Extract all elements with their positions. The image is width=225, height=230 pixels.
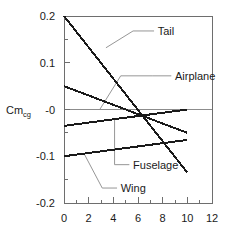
cm-cg-vs-alpha-chart: 024681012-0.2-0.1-00.10.2CmcgTailAirplan… — [0, 0, 225, 230]
x-tick-label: 6 — [135, 212, 141, 224]
series-label-airplane: Airplane — [175, 70, 215, 82]
leader-line-wing — [84, 153, 117, 188]
x-tick-label: 8 — [160, 212, 166, 224]
series-line-tail — [64, 16, 187, 173]
y-tick-label: 0.1 — [40, 57, 55, 69]
x-tick-label: 10 — [181, 212, 193, 224]
leader-line-fuselage — [115, 120, 130, 165]
series-label-tail: Tail — [158, 25, 175, 37]
series-line-fuselage — [64, 110, 187, 126]
series-label-wing: Wing — [121, 182, 146, 194]
y-tick-label: -0.2 — [36, 197, 55, 209]
x-tick-label: 0 — [61, 212, 67, 224]
y-tick-label: -0.1 — [36, 150, 55, 162]
x-tick-label: 12 — [206, 212, 218, 224]
y-axis-title: Cmcg — [6, 104, 31, 119]
x-tick-label: 4 — [110, 212, 116, 224]
series-label-fuselage: Fuselage — [133, 159, 178, 171]
y-tick-label: -0 — [45, 104, 55, 116]
leader-line-tail — [106, 31, 154, 48]
x-tick-label: 2 — [86, 212, 92, 224]
chart-container: 024681012-0.2-0.1-00.10.2CmcgTailAirplan… — [0, 0, 225, 230]
y-tick-label: 0.2 — [40, 10, 55, 22]
